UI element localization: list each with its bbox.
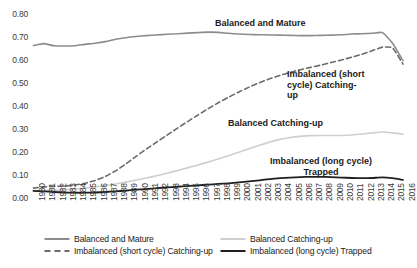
y-tick-label: 0.80 [2,9,28,19]
x-tick-label: 1980 [37,183,47,201]
x-tick-label: 2003 [273,183,283,201]
chart-legend: Balanced and MatureBalanced Catching-upI… [44,233,384,257]
x-tick-label: 2005 [294,183,304,201]
annotation-line-2: Trapped [303,167,338,177]
x-tick-label: 1994 [181,183,191,201]
x-tick-label: 1982 [58,183,68,201]
x-tick-label: 1995 [191,183,201,201]
x-tick-label: 2001 [253,183,263,201]
x-tick-label: 2013 [376,183,386,201]
x-tick-label: 2012 [366,183,376,201]
legend-label: Imbalanced (short cycle) Catching-up [74,246,213,256]
x-tick-label: 1996 [201,183,211,201]
legend-item[interactable]: Balanced Catching-up [220,234,396,244]
x-tick-label: 2000 [242,183,252,201]
annotation-line-1: Imbalanced (short [287,69,365,79]
legend-label: Balanced Catching-up [250,234,333,244]
x-tick-label: 2006 [304,183,314,201]
x-tick-label: 1997 [212,183,222,201]
x-tick-label: 1983 [68,183,78,201]
x-tick-label: 2015 [396,183,406,201]
x-tick-label: 2002 [263,183,273,201]
y-tick-label: 0.70 [2,32,28,42]
annotation-imbalanced-short-cycle: Imbalanced (short cycle) Catching-up [287,69,365,101]
x-tick-label: 2011 [355,184,365,201]
x-tick-label: 1984 [78,183,88,201]
legend-swatch-icon [220,247,246,255]
legend-label: Imbalanced (long cycle) Trapped [250,246,372,256]
x-tick-label: 1999 [232,183,242,201]
y-tick-label: 0.50 [2,78,28,88]
x-tick-label: 1981 [47,183,57,201]
x-tick-label: 2016 [407,183,417,201]
x-tick-label: 2007 [314,183,324,201]
x-tick-label: 2004 [283,183,293,201]
x-tick-label: 1991 [150,183,160,201]
x-tick-label: 2008 [324,183,334,201]
y-tick-label: 0.30 [2,124,28,134]
annotation-balanced-and-mature: Balanced and Mature [215,18,306,29]
annotation-imbalanced-long-cycle: Imbalanced (long cycle)Trapped [262,156,380,177]
x-tick-label: 1989 [129,183,139,201]
x-tick-label: 1998 [222,183,232,201]
annotation-line-2: cycle) Catching-up [287,80,357,101]
x-tick-label: 1986 [99,183,109,201]
legend-item[interactable]: Imbalanced (long cycle) Trapped [220,246,396,256]
x-tick-label: 2014 [386,183,396,201]
x-tick-label: 1987 [109,183,119,201]
legend-swatch-icon [44,235,70,243]
y-tick-label: 0.20 [2,147,28,157]
annotation-line-1: Imbalanced (long cycle) [270,156,372,166]
y-tick-label: 0.10 [2,170,28,180]
legend-item[interactable]: Balanced and Mature [44,234,220,244]
y-tick-label: 0.00 [2,193,28,203]
legend-label: Balanced and Mature [74,234,154,244]
legend-item[interactable]: Imbalanced (short cycle) Catching-up [44,246,220,256]
x-tick-label: 1988 [119,183,129,201]
x-tick-label: 2009 [335,183,345,201]
x-tick-label: 2010 [345,183,355,201]
annotation-balanced-catching-up: Balanced Catching-up [228,118,323,129]
x-tick-label: 1985 [88,183,98,201]
legend-swatch-icon [44,247,70,255]
y-tick-label: 0.40 [2,101,28,111]
x-tick-label: 1993 [171,183,181,201]
x-tick-label: 1992 [160,183,170,201]
series-line [34,32,404,61]
y-tick-label: 0.60 [2,55,28,65]
legend-swatch-icon [220,235,246,243]
x-tick-label: 1990 [140,183,150,201]
